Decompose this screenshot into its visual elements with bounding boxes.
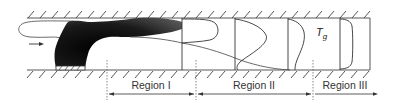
region-2-label: Region II [233,79,275,91]
burner-base [56,66,85,70]
top-wall-hatching [28,11,370,18]
flame-body [55,18,183,68]
flame-boundary-line [130,37,290,70]
temperature-profile-4 [340,18,353,70]
temperature-profile-2 [235,18,267,70]
bottom-wall-hatching [27,71,369,78]
inflow-arrow-icon [29,42,44,46]
combustion-channel-diagram: Tg Region I Region II Region III [0,0,393,108]
region-arrows [109,92,378,95]
temperature-profile-3 [288,18,304,70]
bottom-wall [27,70,370,78]
region-3-label: Region III [323,79,368,91]
region-1-label: Region I [131,79,170,91]
top-wall [27,11,370,18]
temperature-label: Tg [316,26,328,41]
